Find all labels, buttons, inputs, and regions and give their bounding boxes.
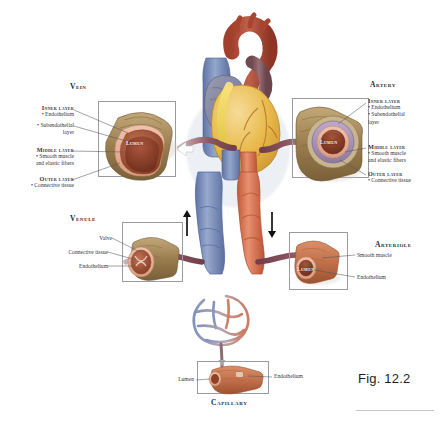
label-artery-outer-item: • Connective tissue xyxy=(368,177,441,184)
label-artery-middle-2: and elastic fibers xyxy=(368,157,441,164)
label-artery-inner-2: • Subendothelial xyxy=(368,111,441,118)
label-vein-outer-item: • Connective tissue xyxy=(0,182,74,189)
label-arteriole-smooth-muscle: Smooth muscle xyxy=(357,252,441,259)
heading-vein: Vein xyxy=(70,82,87,91)
leader-artery-middle xyxy=(345,148,366,152)
label-vein-inner-item: • Endothelium xyxy=(0,111,74,118)
label-vein-outer-title: Outer layer xyxy=(0,175,74,182)
label-artery-outer-title: Outer layer xyxy=(368,170,441,177)
label-vein-inner-layer: Inner layer • Endothelium xyxy=(0,104,74,118)
label-vein-sub-1: • Subendothelial xyxy=(0,122,74,129)
leader-venule-valve xyxy=(112,238,140,252)
label-artery-middle-layer: Middle layer • Smooth muscle and elastic… xyxy=(368,143,441,165)
leader-vein-middle xyxy=(72,151,124,152)
leader-capillary-lumen xyxy=(196,379,210,380)
leader-vein-sub xyxy=(74,126,126,141)
leader-vein-inner xyxy=(74,110,128,133)
figure-caption: Fig. 12.2 xyxy=(358,371,410,386)
leader-arteriole-smooth xyxy=(322,255,355,258)
leader-capillary-endothelium xyxy=(248,376,272,377)
label-vein-middle-layer: Middle layer • Smooth muscle and elastic… xyxy=(0,146,74,168)
label-artery-inner-1: • Endothelium xyxy=(368,104,441,111)
label-artery-inner-3: layer xyxy=(368,119,441,126)
heading-venule: Venule xyxy=(70,214,96,223)
label-vein-inner-title: Inner layer xyxy=(0,104,74,111)
leader-venule-connective xyxy=(108,252,136,260)
label-arteriole-endothelium: Endothelium xyxy=(357,274,441,281)
label-artery-middle-1: • Smooth muscle xyxy=(368,150,441,157)
footer-rule xyxy=(356,410,434,411)
label-venule-connective: Connective tissue xyxy=(18,249,108,256)
label-vein-outer-layer: Outer layer • Connective tissue xyxy=(0,175,74,189)
label-artery-middle-title: Middle layer xyxy=(368,143,441,150)
label-venule-endothelium: Endothelium xyxy=(24,263,108,270)
leader-lines xyxy=(0,0,441,421)
label-capillary-lumen: Lumen xyxy=(150,376,194,383)
heading-capillary: Capillary xyxy=(211,398,247,407)
label-venule-valve: Valve xyxy=(30,235,112,242)
label-artery-outer-layer: Outer layer • Connective tissue xyxy=(368,170,441,184)
figure-canvas: Vein Artery Venule Arteriole Capillary I… xyxy=(0,0,441,421)
label-vein-middle-1: • Smooth muscle xyxy=(0,153,74,160)
heading-artery: Artery xyxy=(370,80,396,89)
label-artery-inner-title: Inner layer xyxy=(368,97,441,104)
leader-arteriole-endothelium xyxy=(314,270,355,277)
leader-artery-outer xyxy=(340,160,366,175)
label-vein-middle-title: Middle layer xyxy=(0,146,74,153)
heading-arteriole: Arteriole xyxy=(375,240,412,249)
label-vein-subendothelial: • Subendothelial layer xyxy=(0,122,74,136)
label-capillary-endothelium: Endothelium xyxy=(274,373,344,380)
leader-vein-outer xyxy=(72,163,120,180)
leader-artery-inner xyxy=(338,103,366,124)
label-artery-inner-layer: Inner layer • Endothelium • Subendotheli… xyxy=(368,97,441,126)
label-vein-middle-2: and elastic fibers xyxy=(0,160,74,167)
label-vein-sub-2: layer xyxy=(0,129,74,136)
